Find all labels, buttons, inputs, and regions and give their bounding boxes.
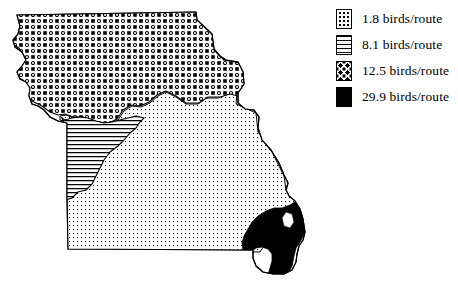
legend-swatch-horizontal-lines-icon (336, 35, 352, 55)
missouri-map (0, 0, 320, 284)
map-svg (0, 0, 320, 284)
legend-item-3: 12.5 birds/route (336, 60, 449, 82)
legend-item-1: 1.8 birds/route (336, 8, 442, 30)
legend-item-2: 8.1 birds/route (336, 34, 442, 56)
legend-item-4: 29.9 birds/route (336, 86, 449, 108)
legend-swatch-large-dots-icon (336, 61, 352, 81)
legend-label-1: 1.8 birds/route (362, 12, 442, 26)
legend-label-3: 12.5 birds/route (362, 64, 449, 78)
legend: 1.8 birds/route 8.1 birds/route 12.5 bir… (336, 6, 458, 118)
legend-label-4: 29.9 birds/route (362, 90, 449, 104)
bird-density-figure: 1.8 birds/route 8.1 birds/route 12.5 bir… (0, 0, 458, 284)
legend-label-2: 8.1 birds/route (362, 38, 442, 52)
legend-swatch-solid-black-icon (336, 87, 352, 107)
legend-swatch-sparse-dots-icon (336, 9, 352, 29)
